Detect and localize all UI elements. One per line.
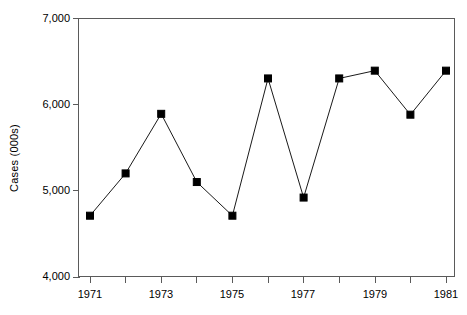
line-chart: Cases (000s) 7,000 6,000 5,000 4,000 197… — [0, 0, 467, 315]
data-point-1972 — [122, 170, 129, 177]
data-point-1979 — [371, 67, 378, 74]
data-point-1978 — [336, 75, 343, 82]
data-point-1973 — [158, 110, 165, 117]
data-point-1974 — [193, 179, 200, 186]
data-point-1977 — [300, 194, 307, 201]
series-markers — [87, 67, 450, 219]
data-point-1971 — [87, 212, 94, 219]
series-line-cases — [90, 71, 446, 216]
data-point-1975 — [229, 212, 236, 219]
series-layer — [0, 0, 467, 315]
data-point-1976 — [265, 75, 272, 82]
data-point-1981 — [443, 67, 450, 74]
data-point-1980 — [407, 111, 414, 118]
